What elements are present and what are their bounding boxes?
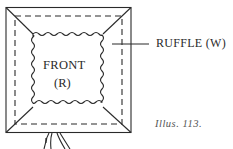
miter-top-right [103,8,131,35]
front-code-label: (R) [54,76,71,91]
front-label: FRONT [43,58,85,73]
illustration-caption: Illus. 113. [155,118,202,129]
miter-top-left [6,8,33,35]
ruffle-label: RUFFLE (W) [156,36,226,51]
thread-left [44,133,52,149]
miter-bottom-left [6,107,33,133]
thread-right [57,133,70,149]
miter-bottom-right [103,107,131,133]
